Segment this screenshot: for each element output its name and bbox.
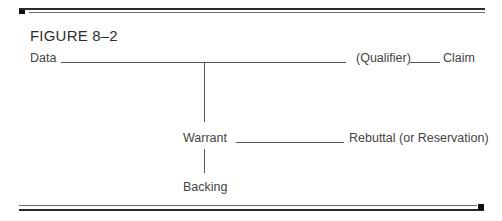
node-backing: Backing <box>183 180 227 194</box>
frame-corner-square-bottom <box>478 204 484 210</box>
node-claim: Claim <box>443 51 475 65</box>
frame-bottom-thin-rule <box>19 205 477 206</box>
connector-qualifier-claim <box>410 62 440 63</box>
node-qualifier: (Qualifier) <box>356 51 411 65</box>
frame-top-thin-rule <box>29 12 485 13</box>
connector-warrant-rebuttal <box>236 142 344 143</box>
frame-top-thick-rule <box>19 8 485 10</box>
node-rebuttal: Rebuttal (or Reservation) <box>349 131 489 145</box>
node-warrant: Warrant <box>183 131 227 145</box>
node-data: Data <box>30 51 56 65</box>
connector-data-warrant <box>204 62 205 122</box>
frame-bottom-thick-rule <box>19 209 484 211</box>
figure-title: FIGURE 8–2 <box>30 27 118 44</box>
connector-warrant-backing <box>204 149 205 173</box>
